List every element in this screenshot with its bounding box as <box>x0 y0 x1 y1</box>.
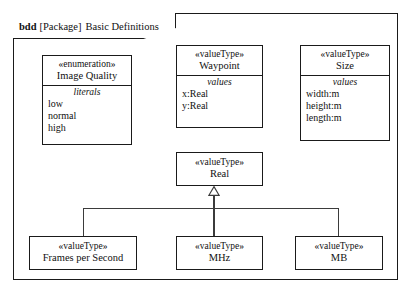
block-mhz[interactable]: «valueType» MHz <box>176 236 263 270</box>
block-waypoint-stereotype: «valueType» <box>179 49 260 60</box>
block-frames-per-second-header: «valueType» Frames per Second <box>30 237 136 267</box>
block-frames-per-second[interactable]: «valueType» Frames per Second <box>29 236 137 270</box>
value-item: y:Real <box>177 100 262 112</box>
generalization-stem-mb <box>338 208 339 236</box>
value-item: x:Real <box>177 88 262 100</box>
compartment-title-values: values <box>177 77 262 88</box>
block-mhz-header: «valueType» MHz <box>177 237 262 267</box>
block-image-quality[interactable]: «enumeration» Image Quality literals low… <box>42 55 132 145</box>
block-waypoint-header: «valueType» Waypoint <box>177 46 262 76</box>
block-frames-per-second-name: Frames per Second <box>32 252 134 264</box>
value-item: width:m <box>301 88 389 100</box>
generalization-stem-center <box>213 195 214 236</box>
diagram-kind-label: bdd <box>19 21 37 32</box>
block-size-stereotype: «valueType» <box>303 49 387 60</box>
block-mb[interactable]: «valueType» MB <box>295 236 383 270</box>
compartment-title-literals: literals <box>43 87 131 98</box>
block-size[interactable]: «valueType» Size values width:m height:m… <box>300 45 390 141</box>
block-size-name: Size <box>303 60 387 72</box>
value-item: length:m <box>301 112 389 124</box>
literal-item: normal <box>43 110 131 122</box>
literal-item: high <box>43 122 131 134</box>
generalization-stem-frames-per-second <box>83 208 84 236</box>
block-image-quality-literals-compartment: literals low normal high <box>43 86 131 137</box>
block-waypoint-name: Waypoint <box>179 60 260 72</box>
compartment-title-values: values <box>301 77 389 88</box>
diagram-name-label: Basic Definitions <box>86 21 159 32</box>
block-mb-header: «valueType» MB <box>296 237 382 267</box>
block-mhz-stereotype: «valueType» <box>179 241 260 252</box>
block-real[interactable]: «valueType» Real <box>176 152 263 186</box>
literal-item: low <box>43 98 131 110</box>
diagram-scope-label: [Package] <box>40 21 82 32</box>
block-mb-stereotype: «valueType» <box>298 241 380 252</box>
block-mb-name: MB <box>298 252 380 264</box>
block-mhz-name: MHz <box>179 252 260 264</box>
block-size-values-compartment: values width:m height:m length:m <box>301 76 389 127</box>
block-frames-per-second-stereotype: «valueType» <box>32 241 134 252</box>
block-image-quality-name: Image Quality <box>45 70 129 82</box>
block-real-header: «valueType» Real <box>177 153 262 183</box>
block-image-quality-header: «enumeration» Image Quality <box>43 56 131 86</box>
generalization-bus <box>83 208 339 209</box>
diagram-canvas: bdd [Package] Basic Definitions «enumera… <box>0 0 411 293</box>
block-real-name: Real <box>179 168 260 180</box>
block-size-header: «valueType» Size <box>301 46 389 76</box>
block-waypoint[interactable]: «valueType» Waypoint values x:Real y:Rea… <box>176 45 263 128</box>
block-waypoint-values-compartment: values x:Real y:Real <box>177 76 262 115</box>
value-item: height:m <box>301 100 389 112</box>
block-real-stereotype: «valueType» <box>179 157 260 168</box>
block-image-quality-stereotype: «enumeration» <box>45 59 129 70</box>
package-frame-header: bdd [Package] Basic Definitions <box>13 13 176 39</box>
